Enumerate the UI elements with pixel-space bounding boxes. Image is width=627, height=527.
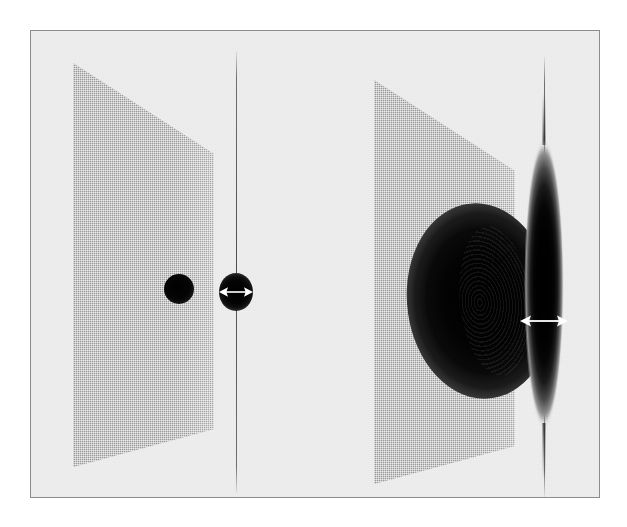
figure-stage bbox=[31, 31, 599, 497]
figure-root bbox=[0, 0, 627, 527]
figure-plate bbox=[30, 30, 600, 498]
transverse-plane-left bbox=[73, 63, 214, 467]
longitudinal-envelope-right bbox=[524, 139, 564, 429]
plane-shading-left bbox=[73, 63, 214, 467]
longitudinal-axis-left bbox=[236, 51, 237, 493]
envelope-tail-bottom-right bbox=[543, 423, 546, 479]
transverse-spot-left bbox=[164, 274, 194, 304]
envelope-tail-top-right bbox=[543, 93, 546, 145]
longitudinal-envelope-left bbox=[219, 273, 253, 311]
